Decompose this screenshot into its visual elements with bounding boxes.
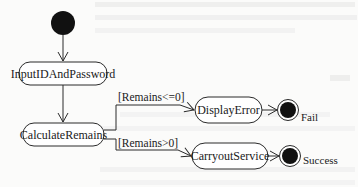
- activity-calculate-remains: CalculateRemains: [20, 123, 108, 146]
- final-label-success: Success: [303, 154, 338, 166]
- activity-carryout-service: CarryoutService: [191, 143, 270, 169]
- activity-diagram: InputIDAndPassword CalculateRemains [Rem…: [0, 0, 358, 187]
- initial-node-icon: [51, 11, 75, 35]
- final-label-fail: Fail: [301, 111, 318, 123]
- activity-label: CarryoutService: [191, 149, 270, 163]
- activity-label: CalculateRemains: [20, 128, 108, 142]
- final-node-success-icon: [280, 146, 301, 167]
- activity-display-error: DisplayError: [195, 97, 262, 123]
- activity-label: InputIDAndPassword: [11, 67, 116, 81]
- guard-remains-le-0: [Remains<=0]: [118, 91, 185, 103]
- final-node-fail-icon: [278, 100, 299, 121]
- activity-input-id-and-password: InputIDAndPassword: [11, 62, 116, 85]
- activity-label: DisplayError: [197, 103, 260, 117]
- guard-remains-gt-0: [Remains>0]: [118, 137, 178, 149]
